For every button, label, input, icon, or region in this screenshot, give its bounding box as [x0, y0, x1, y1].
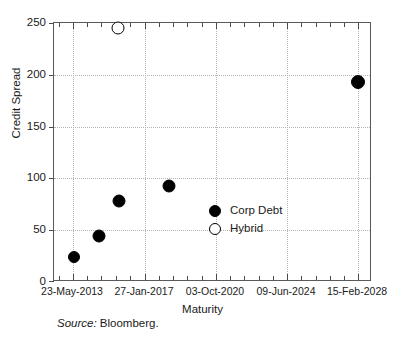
- x-minor-tick-top: [316, 23, 317, 27]
- x-minor-tick-top: [202, 23, 203, 27]
- x-minor-tick-bottom: [130, 276, 131, 280]
- x-minor-tick-top: [273, 23, 274, 27]
- x-minor-tick-bottom: [259, 276, 260, 280]
- x-tick-label-4: 09-Jun-2024: [257, 286, 316, 297]
- gridline-y-150: [54, 127, 370, 128]
- data-point-corp-debt: [163, 180, 176, 193]
- x-minor-tick-bottom: [230, 276, 231, 280]
- data-point-corp-debt: [68, 251, 80, 263]
- x-major-tick-bottom-5: [358, 274, 359, 280]
- y-tick-label-100: 100: [4, 172, 46, 184]
- x-minor-tick-top: [87, 23, 88, 27]
- gridline-x-3: [216, 23, 217, 280]
- x-minor-tick-top: [344, 23, 345, 27]
- x-minor-tick-bottom: [87, 276, 88, 280]
- y-axis-title: Credit Spread: [10, 43, 22, 163]
- x-minor-tick-top: [259, 23, 260, 27]
- y-tick-200: [49, 75, 54, 76]
- source-note: Source: Bloomberg.: [57, 317, 159, 329]
- x-major-tick-top-1: [73, 23, 74, 29]
- x-major-tick-top-3: [216, 23, 217, 29]
- x-minor-tick-bottom: [59, 276, 60, 280]
- plot-area: [53, 22, 371, 281]
- x-major-tick-top-5: [358, 23, 359, 29]
- x-axis-title: Maturity: [0, 303, 405, 315]
- x-minor-tick-bottom: [330, 276, 331, 280]
- x-minor-tick-top: [230, 23, 231, 27]
- y-tick-label-150: 150: [4, 121, 46, 133]
- x-minor-tick-bottom: [244, 276, 245, 280]
- data-point-corp-debt: [93, 230, 106, 243]
- gridline-x-4: [287, 23, 288, 280]
- x-tick-label-3: 03-Oct-2020: [186, 286, 244, 297]
- x-tick-label-1: 23-May-2013: [41, 286, 103, 297]
- y-tick-label-250: 250: [4, 17, 46, 29]
- x-minor-tick-bottom: [187, 276, 188, 280]
- source-label: Source:: [57, 317, 97, 329]
- x-minor-tick-bottom: [301, 276, 302, 280]
- x-minor-tick-bottom: [116, 276, 117, 280]
- y-tick-100: [49, 178, 54, 179]
- x-minor-tick-top: [244, 23, 245, 27]
- data-point-corp-debt: [351, 75, 365, 89]
- gridline-x-5: [358, 23, 359, 280]
- x-minor-tick-top: [301, 23, 302, 27]
- x-minor-tick-bottom: [101, 276, 102, 280]
- x-minor-tick-top: [130, 23, 131, 27]
- gridline-y-200: [54, 75, 370, 76]
- x-major-tick-bottom-2: [145, 274, 146, 280]
- gridline-x-2: [145, 23, 146, 280]
- chart-figure: Credit Spread 250 200 150 100 50 0: [0, 0, 405, 340]
- x-tick-label-2: 27-Jan-2017: [115, 286, 174, 297]
- x-tick-label-5: 15-Feb-2028: [327, 286, 387, 297]
- filled-circle-icon: [207, 203, 223, 219]
- x-minor-tick-bottom: [202, 276, 203, 280]
- y-tick-50: [49, 230, 54, 231]
- x-major-tick-bottom-3: [216, 274, 217, 280]
- x-major-tick-bottom-1: [73, 274, 74, 280]
- x-minor-tick-bottom: [316, 276, 317, 280]
- legend-item-corp-debt: Corp Debt: [207, 202, 307, 220]
- x-major-tick-bottom-4: [287, 274, 288, 280]
- open-circle-icon: [207, 221, 223, 237]
- x-minor-tick-bottom: [159, 276, 160, 280]
- y-tick-250: [49, 23, 54, 24]
- data-point-hybrid: [112, 22, 125, 35]
- legend-label-corp-debt: Corp Debt: [230, 205, 282, 217]
- y-tick-label-0: 0: [4, 276, 46, 288]
- y-tick-0: [49, 281, 54, 282]
- x-minor-tick-top: [187, 23, 188, 27]
- source-value: Bloomberg.: [100, 317, 159, 329]
- gridline-y-100: [54, 178, 370, 179]
- x-major-tick-top-4: [287, 23, 288, 29]
- legend-item-hybrid: Hybrid: [207, 220, 307, 238]
- gridline-x-1: [73, 23, 74, 280]
- y-tick-label-200: 200: [4, 69, 46, 81]
- x-minor-tick-bottom: [273, 276, 274, 280]
- x-minor-tick-bottom: [173, 276, 174, 280]
- x-minor-tick-top: [173, 23, 174, 27]
- legend-label-hybrid: Hybrid: [230, 223, 263, 235]
- data-point-corp-debt: [113, 195, 126, 208]
- x-minor-tick-top: [159, 23, 160, 27]
- x-major-tick-top-2: [145, 23, 146, 29]
- x-minor-tick-top: [330, 23, 331, 27]
- x-minor-tick-top: [59, 23, 60, 27]
- x-minor-tick-bottom: [344, 276, 345, 280]
- x-minor-tick-top: [101, 23, 102, 27]
- y-tick-150: [49, 127, 54, 128]
- chart-legend: Corp Debt Hybrid: [207, 202, 307, 238]
- y-tick-label-50: 50: [4, 224, 46, 236]
